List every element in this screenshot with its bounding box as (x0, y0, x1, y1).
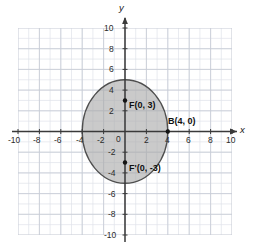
x-tick-label--4: -4 (76, 136, 84, 145)
x-tick-label--2: -2 (97, 136, 105, 145)
y-tick-label--10: -10 (104, 231, 116, 240)
y-tick-label-2: 2 (109, 107, 114, 116)
x-axis-label: x (240, 125, 245, 135)
y-tick-label-8: 8 (109, 45, 114, 54)
point-focus-upper (123, 98, 127, 102)
y-tick-label-4: 4 (109, 86, 114, 95)
axes (12, 17, 237, 242)
figure-canvas: x y -10 -8 -6 -4 -2 0 2 4 6 8 10 10 8 6 … (0, 0, 255, 246)
point-vertex-b (166, 129, 170, 133)
coordinate-plane-svg (0, 0, 255, 246)
y-tick-label--8: -8 (108, 210, 116, 219)
x-tick-label-0: 0 (116, 135, 121, 144)
x-tick-label-6: 6 (186, 136, 191, 145)
x-tick-label-10: 10 (226, 136, 235, 145)
x-axis-arrow-icon (230, 129, 237, 135)
x-tick-label-4: 4 (165, 136, 170, 145)
y-axis-arrow-icon (122, 17, 128, 24)
y-tick-label--6: -6 (108, 190, 116, 199)
y-tick-label-10: 10 (104, 24, 113, 33)
y-tick-label--2: -2 (108, 148, 116, 157)
point-focus-lower (123, 160, 127, 164)
x-tick-label-8: 8 (208, 136, 213, 145)
y-tick-label-6: 6 (109, 65, 114, 74)
y-tick-label--4: -4 (108, 169, 116, 178)
x-tick-label--6: -6 (54, 136, 62, 145)
point-label-focus-upper: F(0, 3) (129, 101, 156, 110)
x-tick-label--10: -10 (8, 136, 20, 145)
x-tick-label--8: -8 (33, 136, 41, 145)
point-label-focus-lower: F'(0, -3) (129, 164, 161, 173)
x-tick-label-2: 2 (144, 136, 149, 145)
y-axis-label: y (119, 3, 124, 13)
point-label-vertex-b: B(4, 0) (168, 117, 196, 126)
